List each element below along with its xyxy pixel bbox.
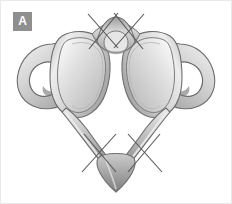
- panel-label-badge: A: [13, 12, 32, 31]
- anterior-arch-group: [97, 17, 135, 54]
- anterior-tubercle: [104, 31, 128, 53]
- posterior-arch-group: [97, 154, 135, 193]
- figure-panel: A: [0, 0, 232, 204]
- atlas-vertebra-illustration: [0, 0, 232, 204]
